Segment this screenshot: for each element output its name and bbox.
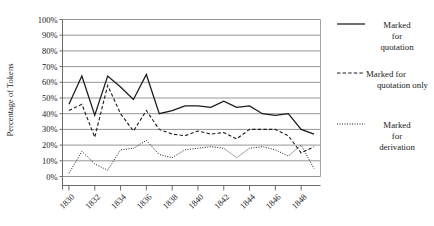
- legend-label-text: Marked: [383, 120, 411, 130]
- data-series-group: [69, 74, 314, 173]
- x-tick-label: 1832: [83, 192, 102, 211]
- x-tick-label: 1830: [57, 192, 76, 211]
- chart-legend: MarkedforquotationMarked forquotation on…: [337, 20, 429, 152]
- legend-label-text: for: [392, 131, 402, 141]
- y-tick-label: 100%: [38, 15, 58, 25]
- y-tick-label: 60%: [42, 77, 58, 87]
- y-tick-label: 30%: [42, 124, 58, 134]
- plot-frame: [63, 20, 321, 190]
- y-axis-title: Percentage of Tokens: [5, 64, 15, 137]
- y-tick-label: 20%: [42, 140, 58, 150]
- x-tick-label: 1842: [212, 192, 231, 211]
- x-tick-label: 1846: [264, 192, 283, 211]
- x-tick-label: 1840: [186, 192, 205, 211]
- legend-label-text: Marked: [383, 20, 411, 30]
- x-tick-label: 1844: [238, 191, 258, 211]
- y-tick-label: 0%: [46, 172, 57, 182]
- chart-figure: 0%10%20%30%40%50%60%70%80%90%100% 183018…: [0, 0, 434, 226]
- y-axis-tick-labels: 0%10%20%30%40%50%60%70%80%90%100%: [38, 15, 63, 182]
- y-tick-label: 90%: [42, 30, 58, 40]
- legend-label-text: for: [392, 31, 402, 41]
- x-tick-label: 1836: [135, 192, 154, 211]
- legend-label-text: quotation only: [377, 80, 429, 90]
- legend-label-text: derivation: [379, 142, 415, 152]
- x-tick-label: 1838: [160, 192, 179, 211]
- x-tick-label: 1834: [109, 191, 129, 211]
- series-line-dashed: [69, 85, 314, 153]
- line-chart: 0%10%20%30%40%50%60%70%80%90%100% 183018…: [0, 0, 434, 226]
- y-tick-label: 10%: [42, 156, 58, 166]
- x-axis-tick-labels: 1830183218341836183818401842184418461848: [57, 191, 308, 211]
- x-axis-tickmarks: [69, 186, 301, 191]
- series-line-solid: [69, 74, 314, 134]
- x-tick-label: 1848: [289, 192, 308, 211]
- legend-label-text: Marked for: [366, 69, 406, 79]
- y-tick-label: 40%: [42, 109, 58, 119]
- y-tick-label: 70%: [42, 62, 58, 72]
- y-tick-label: 50%: [42, 93, 58, 103]
- y-tick-label: 80%: [42, 46, 58, 56]
- gridlines: [63, 20, 321, 177]
- legend-label-text: quotation: [380, 42, 414, 52]
